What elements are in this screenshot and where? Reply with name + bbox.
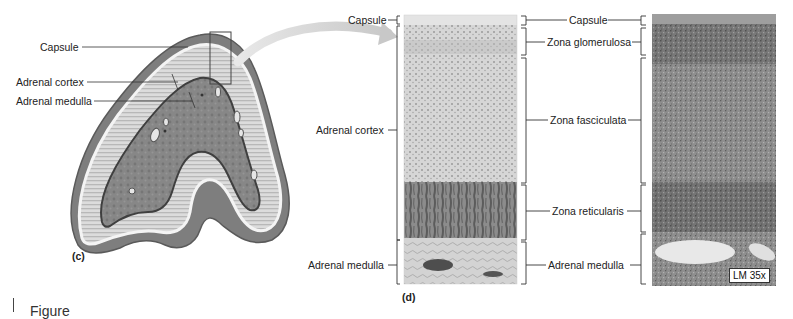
- histology-drawing: [404, 15, 517, 284]
- label-adrenal-cortex-d: Adrenal cortex: [316, 124, 384, 136]
- magnification-badge: LM 35x: [729, 268, 770, 283]
- brackets-left-d: [388, 16, 400, 284]
- label-adrenal-medulla-c: Adrenal medulla: [16, 95, 92, 107]
- label-zona-glomerulosa: Zona glomerulosa: [547, 36, 631, 48]
- magnify-arrow: [238, 22, 398, 62]
- light-micrograph: [652, 14, 778, 286]
- adrenal-gland-illustration: [71, 32, 289, 253]
- label-zone-capsule: Capsule: [569, 14, 608, 26]
- label-zona-fasciculata: Zona fasciculata: [550, 114, 626, 126]
- label-adrenal-medulla-d: Adrenal medulla: [308, 259, 384, 271]
- caption-bar: [13, 298, 14, 312]
- panel-letter-c: (c): [72, 250, 85, 262]
- label-capsule-c: Capsule: [40, 41, 79, 53]
- label-adrenal-cortex-c: Adrenal cortex: [16, 76, 84, 88]
- label-zona-reticularis: Zona reticularis: [552, 205, 624, 217]
- label-zone-adrenal-medulla: Adrenal medulla: [548, 259, 624, 271]
- brackets-middle: [521, 16, 646, 284]
- figure-caption: Figure: [30, 303, 70, 319]
- panel-letter-d: (d): [402, 291, 415, 303]
- label-capsule-d: Capsule: [348, 14, 387, 26]
